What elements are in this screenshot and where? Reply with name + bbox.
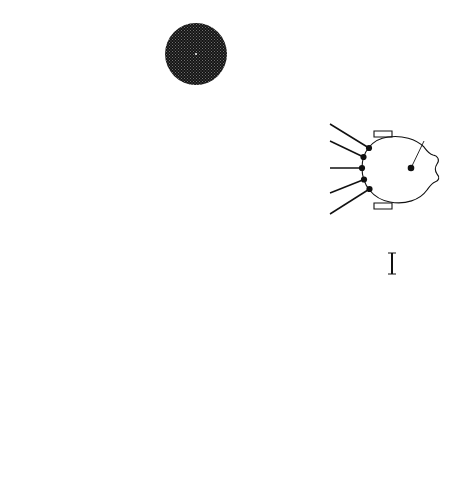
visual-field-charts (0, 0, 462, 487)
